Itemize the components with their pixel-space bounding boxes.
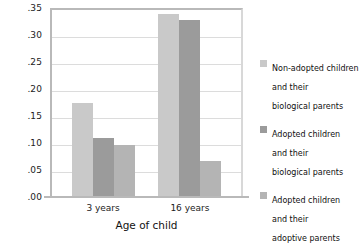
legend-swatch [260,192,267,199]
y-axis-tick-label: .30 [27,31,42,40]
bar [93,138,114,197]
legend-item: Non-adopted children and their biologica… [260,56,364,113]
bar [158,14,179,197]
legend: Non-adopted children and their biologica… [260,56,364,247]
bar [200,161,221,197]
y-axis-tick-label: .25 [27,58,42,67]
bars-layer [50,8,243,197]
y-axis-tick-label: .20 [27,85,42,94]
y-axis-tick-label: .05 [27,166,42,175]
bar [179,20,200,197]
x-axis-title: Age of child [50,219,243,231]
legend-label: Non-adopted children and their biologica… [272,64,359,111]
y-axis-tick-label: .15 [27,112,42,121]
x-axis-line [44,196,249,198]
bar [72,103,93,198]
y-axis-tick-label: .35 [27,4,42,13]
y-axis: .00.05.10.15.20.25.30.35 [0,0,46,200]
legend-label: Adopted children and their biological pa… [272,130,343,177]
x-axis-category-label: 16 years [150,203,230,213]
y-axis-tick-label: .10 [27,139,42,148]
bar [114,145,135,197]
y-axis-tick-label: .00 [27,193,42,202]
legend-item: Adopted children and their adoptive pare… [260,188,364,245]
legend-item: Adopted children and their biological pa… [260,122,364,179]
x-axis-category-label: 3 years [63,203,143,213]
legend-swatch [260,60,267,67]
legend-label: Adopted children and their adoptive pare… [272,196,340,243]
legend-swatch [260,126,267,133]
